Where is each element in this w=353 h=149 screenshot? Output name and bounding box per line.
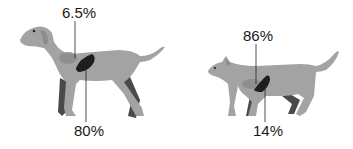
cat-top-label: 86% — [243, 27, 273, 44]
cat-bottom-label: 14% — [253, 122, 283, 139]
dog-illustration — [20, 21, 165, 122]
dog-bottom-label: 80% — [74, 122, 104, 139]
comparison-figure: 6.5% 80% 86% 14% — [0, 0, 353, 149]
cat-illustration — [208, 44, 339, 122]
dog-top-label: 6.5% — [62, 4, 96, 21]
